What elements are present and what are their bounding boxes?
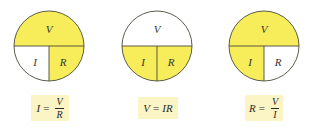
label-r: R (274, 56, 282, 68)
segment-bottom-right-r (157, 46, 192, 81)
segment-bottom-right-r (264, 46, 299, 81)
segment-bottom-right-r (49, 46, 84, 81)
formula-rhs: IR (162, 102, 172, 114)
formula-resistance: R = V I (245, 95, 283, 121)
formula-voltage: V = IR (138, 97, 178, 119)
circle-panel-2: V I R (122, 11, 192, 81)
denominator: R (56, 109, 62, 120)
segment-bottom-left-i (122, 46, 157, 81)
segment-bottom-left-i (14, 46, 49, 81)
label-r: R (59, 56, 67, 68)
numerator: V (55, 97, 63, 109)
formula-current: I = V R (31, 95, 69, 121)
equals-sign: = (259, 102, 265, 114)
formula-lhs: I (37, 102, 41, 114)
fraction: V R (55, 97, 63, 120)
formula-lhs: V (143, 102, 150, 114)
circle-panel-1: V I R (14, 11, 84, 81)
formula-lhs: R (249, 102, 256, 114)
fraction: V I (271, 97, 279, 120)
segment-bottom-left-i (229, 46, 264, 81)
numerator: V (271, 97, 279, 109)
denominator: I (273, 109, 276, 120)
circle-panel-3: V I R (229, 11, 299, 81)
label-r: R (167, 56, 175, 68)
equals-sign: = (43, 102, 49, 114)
equals-sign: = (153, 102, 159, 114)
